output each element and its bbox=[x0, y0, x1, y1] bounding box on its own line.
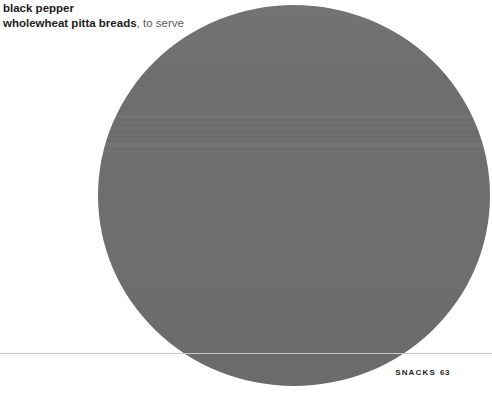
footer-divider bbox=[0, 353, 492, 354]
section-label: SNACKS bbox=[395, 368, 436, 377]
ingredient-note: , to serve bbox=[137, 17, 184, 29]
page-footer: SNACKS63 bbox=[395, 368, 450, 377]
ingredient-item: wholewheat pitta breads, to serve bbox=[3, 16, 263, 31]
cookbook-page: black pepper wholewheat pitta breads, to… bbox=[0, 0, 492, 398]
recipe-photo bbox=[98, 5, 490, 386]
ingredient-item: black pepper bbox=[3, 1, 263, 16]
page-number: 63 bbox=[440, 368, 450, 377]
ingredient-name: wholewheat pitta breads bbox=[3, 17, 137, 29]
photo-sheen-overlay bbox=[98, 5, 490, 386]
photo-image bbox=[98, 5, 490, 386]
ingredient-name: black pepper bbox=[3, 2, 74, 14]
ingredient-list: black pepper wholewheat pitta breads, to… bbox=[3, 1, 263, 31]
